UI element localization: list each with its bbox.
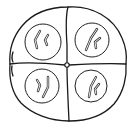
nucleus-top-right — [75, 23, 109, 57]
cell-bottom-left-inner-edge — [12, 66, 13, 76]
vertical-cell-wall-bottom — [67, 67, 69, 121]
chromosome-long — [35, 31, 40, 48]
chromosome-short — [45, 35, 48, 45]
chromosome-short — [37, 80, 40, 91]
center-junction — [65, 63, 69, 67]
chromosome-long — [43, 77, 48, 97]
cell-top-right — [75, 23, 109, 57]
nucleus-bottom-left — [25, 69, 59, 103]
horizontal-cell-wall-right — [69, 64, 126, 65]
cell-top-left — [25, 24, 61, 60]
nucleus-top-left — [25, 24, 61, 60]
cell-bottom-right — [75, 70, 107, 102]
chromosome-short — [95, 38, 100, 48]
horizontal-cell-wall-left — [10, 63, 65, 65]
cell-top-left-inner-edge — [12, 52, 13, 62]
vertical-cell-wall-top — [66, 7, 68, 63]
tetrad-diagram — [0, 0, 133, 129]
cell-bottom-left — [25, 69, 59, 103]
chromosome-short — [95, 84, 99, 94]
